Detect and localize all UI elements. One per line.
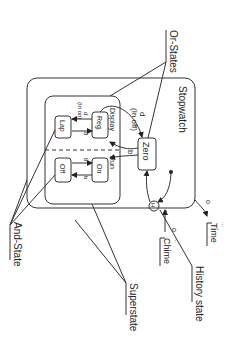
svg-text:d: d [83,132,89,135]
svg-text:b: b [83,176,89,180]
on-label: On [96,164,103,173]
svg-text:o: o [205,200,212,204]
reg-label: Reg. [95,116,103,131]
lap-label: Lap [58,120,66,132]
svg-text:(In off): (In off) [130,108,139,131]
zero-label: Zero [141,142,151,161]
display-label: Display [108,108,116,131]
off-label: Off [59,164,66,173]
statechart-diagram: Stopwatch Display Run Reg. Lap On Off d … [0,0,233,354]
chime-label: Chime [162,238,172,264]
time-label: Time [209,223,219,243]
svg-text:(In on): (In on) [77,102,83,119]
svg-text:...: ... [221,222,227,227]
svg-text:b: b [126,150,135,155]
superstate-callout: Superstate [128,283,139,332]
history-state-callout: History state [194,266,205,322]
diagram-svg: Stopwatch Display Run Reg. Lap On Off d … [0,0,233,354]
svg-text:b: b [83,158,89,162]
and-state-callout: And-State [12,222,23,267]
svg-text:H: H [150,203,156,207]
stopwatch-label: Stopwatch [177,86,188,133]
or-states-callout: Or-States [168,30,179,73]
